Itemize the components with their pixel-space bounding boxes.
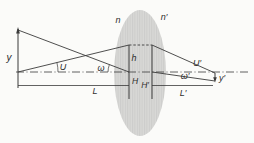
field-angle-arc	[108, 65, 109, 72]
label-image-height: y′	[218, 73, 226, 83]
label-field-angle-image: ω′	[181, 71, 190, 81]
label-object-height: y	[6, 52, 13, 63]
label-refractive-index-object: n	[115, 15, 120, 25]
label-object-distance: L	[92, 86, 97, 96]
optics-figure-canvas: n n′ y U ω h H H′ U′ ω′ y′ L L′	[0, 0, 254, 143]
chief-ray-object-space	[18, 30, 129, 72]
aperture-angle-arc	[57, 63, 58, 73]
label-aperture-angle-image: U′	[193, 58, 201, 68]
label-refractive-index-image: n′	[161, 12, 168, 22]
aperture-ray-object-space	[18, 45, 129, 72]
label-rear-principal-point: H′	[141, 80, 149, 90]
label-aperture-angle-object: U	[60, 62, 67, 72]
image-arrowhead-down-icon	[213, 77, 217, 82]
label-image-distance: L′	[180, 88, 187, 98]
label-principal-plane-height: h	[131, 53, 136, 63]
label-front-principal-point: H	[132, 76, 139, 86]
label-field-angle-object: ω	[97, 63, 104, 73]
optics-figure: n n′ y U ω h H H′ U′ ω′ y′ L L′	[0, 0, 254, 143]
